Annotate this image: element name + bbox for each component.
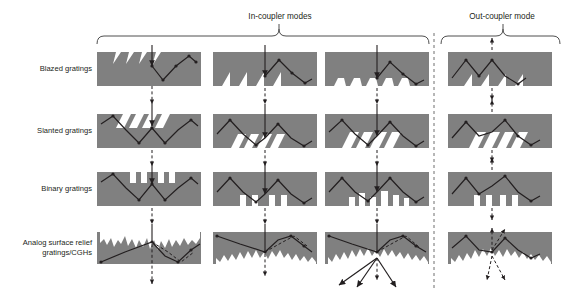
cell-analog-in2 xyxy=(213,224,317,276)
cell-blazed-out xyxy=(448,38,552,100)
group-braces xyxy=(97,24,560,44)
cell-binary-in2 xyxy=(213,163,317,224)
out-coupler-brace xyxy=(441,29,560,44)
cell-binary-in3 xyxy=(325,163,429,224)
cell-slanted-in3 xyxy=(325,104,429,166)
cell-blazed-in3 xyxy=(325,45,429,104)
cell-binary-in1 xyxy=(97,163,201,224)
grating-coupler-figure: In-coupler modes Out-coupler mode Blazed… xyxy=(0,0,566,295)
cell-slanted-in1 xyxy=(97,104,201,166)
in-coupler-brace xyxy=(97,29,429,44)
cell-slanted-in2 xyxy=(213,104,317,166)
cell-analog-in1 xyxy=(97,224,201,284)
grating-diagram-canvas xyxy=(0,0,566,295)
cell-binary-out xyxy=(448,158,552,220)
cell-slanted-out xyxy=(448,100,552,162)
cell-blazed-in2 xyxy=(213,45,317,104)
cell-blazed-in1 xyxy=(97,45,201,104)
cell-analog-in3 xyxy=(325,224,429,287)
cell-analog-out xyxy=(448,228,552,280)
